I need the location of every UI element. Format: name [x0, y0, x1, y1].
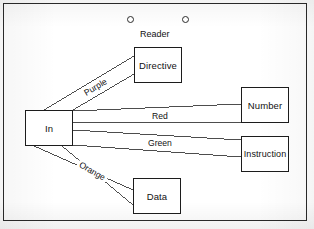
node-in[interactable]: In	[25, 110, 73, 146]
node-number[interactable]: Number	[241, 87, 289, 123]
wire-label-green: Green	[146, 138, 174, 148]
reader-label: Reader	[140, 29, 170, 39]
node-instruction-label: Instruction	[244, 149, 287, 159]
node-directive-label: Directive	[139, 60, 177, 71]
node-number-label: Number	[248, 100, 282, 111]
reader-port-right-icon[interactable]	[182, 16, 189, 23]
wire-purple	[44, 56, 134, 110]
node-data[interactable]: Data	[133, 178, 181, 214]
reader-port-left-icon[interactable]	[127, 16, 134, 23]
wire-orange	[34, 146, 133, 205]
wire-label-red: Red	[150, 111, 170, 121]
node-instruction[interactable]: Instruction	[241, 136, 289, 172]
node-in-label: In	[45, 123, 53, 134]
diagram-canvas: Reader In Directive Number Instruction D…	[0, 0, 314, 229]
node-directive[interactable]: Directive	[134, 47, 182, 83]
node-data-label: Data	[147, 191, 167, 202]
